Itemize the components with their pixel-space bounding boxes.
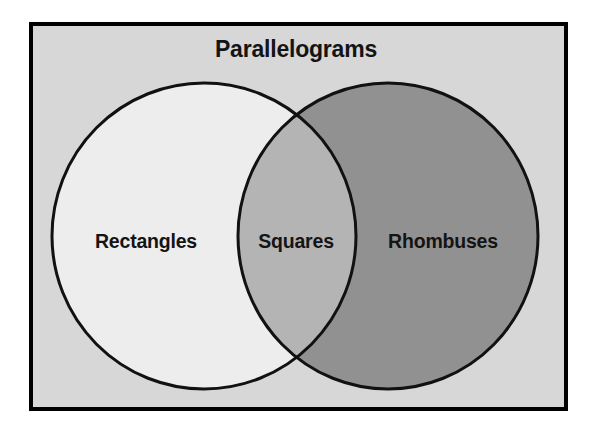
label-rhombuses: Rhombuses xyxy=(388,230,498,252)
label-rectangles: Rectangles xyxy=(95,230,197,252)
page-title: Parallelograms xyxy=(215,36,377,62)
venn-diagram-figure: Parallelograms Rectangles Squares Rhombu… xyxy=(0,0,591,430)
venn-diagram-canvas: Parallelograms Rectangles Squares Rhombu… xyxy=(0,0,591,430)
label-squares: Squares xyxy=(258,230,334,252)
